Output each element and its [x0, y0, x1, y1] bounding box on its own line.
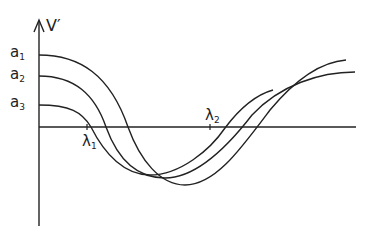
label-main: λ — [82, 132, 91, 150]
curve-label-a3: a3 — [10, 95, 25, 110]
label-sub: 1 — [19, 52, 25, 62]
lambda2-label: λ2 — [205, 108, 220, 123]
label-sub: 1 — [91, 141, 97, 151]
label-main: a — [10, 93, 19, 111]
curve-label-a1: a1 — [10, 45, 25, 60]
label-sub: 2 — [19, 74, 25, 84]
label-main: λ — [205, 106, 214, 124]
lambda1-label: λ1 — [82, 134, 97, 149]
y-axis-label: V′ — [46, 18, 61, 34]
label-sub: 2 — [214, 115, 220, 125]
label-main: a — [10, 65, 19, 83]
label-main: a — [10, 43, 19, 61]
curve-label-a2: a2 — [10, 67, 25, 82]
label-sub: 3 — [19, 102, 25, 112]
